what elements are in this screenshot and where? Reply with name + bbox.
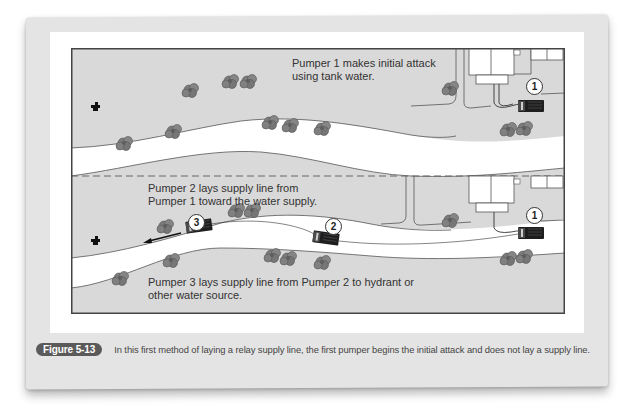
bottom-panel-label-top: Pumper 2 lays supply line from Pumper 1 … xyxy=(148,182,317,208)
relay-supply-diagram xyxy=(71,48,565,314)
bottom-label-top-line2: Pumper 1 toward the water supply. xyxy=(148,195,317,208)
bottom-label-bottom-line1: Pumper 3 lays supply line from Pumper 2 … xyxy=(148,276,414,289)
pumper-1-marker-top: 1 xyxy=(526,78,543,95)
bottom-panel-label-bottom: Pumper 3 lays supply line from Pumper 2 … xyxy=(148,276,414,302)
pumper-3-marker: 3 xyxy=(188,214,205,231)
pumper-1-marker-bottom: 1 xyxy=(526,207,543,224)
top-panel-label: Pumper 1 makes initial attack using tank… xyxy=(292,57,436,83)
bottom-label-bottom-line2: other water source. xyxy=(148,289,414,302)
top-label-line2: using tank water. xyxy=(292,70,436,83)
caption-text: In this first method of laying a relay s… xyxy=(114,344,590,355)
pumper-2-marker: 2 xyxy=(325,218,342,235)
figure-caption: Figure 5-13In this first method of layin… xyxy=(36,343,596,356)
top-label-line1: Pumper 1 makes initial attack xyxy=(292,57,436,70)
bottom-label-top-line1: Pumper 2 lays supply line from xyxy=(148,182,317,195)
figure-badge: Figure 5-13 xyxy=(36,343,102,356)
